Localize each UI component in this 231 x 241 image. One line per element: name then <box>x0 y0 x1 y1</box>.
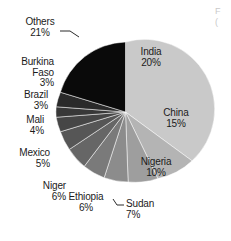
pie-label-mali-value: 4% <box>6 126 44 137</box>
pie-label-sudan-value: 7% <box>126 210 170 221</box>
cropped-edge-text: F ( <box>215 6 231 28</box>
cropped-edge-text-line2: ( <box>215 17 231 28</box>
pie-label-ethiopia-name: Ethiopia <box>62 192 110 203</box>
pie-label-brazil: Brazil 3% <box>6 90 48 111</box>
pie-label-china-name: China <box>157 108 195 119</box>
pie-chart-figure: Others 21% Burkina Faso 3% Brazil 3% Mal… <box>0 0 231 241</box>
pie-label-niger: Niger 6% <box>22 181 66 202</box>
pie-label-niger-value: 6% <box>22 192 66 203</box>
pie-label-niger-name: Niger <box>22 181 66 192</box>
cropped-edge-text-line1: F <box>215 6 231 17</box>
pie-label-nigeria-value: 10% <box>134 168 178 179</box>
pie-label-burkina-faso-name-line1: Burkina <box>6 57 54 68</box>
pie-label-india-name: India <box>133 47 169 58</box>
chart-plot-area: Others 21% Burkina Faso 3% Brazil 3% Mal… <box>0 0 231 241</box>
pie-label-sudan-name: Sudan <box>126 199 170 210</box>
pie-label-ethiopia-value: 6% <box>62 203 110 214</box>
pie-label-brazil-value: 3% <box>6 101 48 112</box>
pie-label-ethiopia: Ethiopia 6% <box>62 192 110 213</box>
pie-label-burkina-faso: Burkina Faso 3% <box>6 57 54 89</box>
pie-label-others-name: Others <box>18 17 62 28</box>
pie-label-sudan: Sudan 7% <box>126 199 170 220</box>
pie-label-mali-name: Mali <box>6 115 44 126</box>
pie-label-mexico: Mexico 5% <box>2 148 50 169</box>
pie-label-china-value: 15% <box>157 119 195 130</box>
pie-label-india: India 20% <box>133 47 169 68</box>
pie-label-mexico-value: 5% <box>2 159 50 170</box>
leader-line-sudan <box>113 199 124 205</box>
pie-label-nigeria: Nigeria 10% <box>134 157 178 178</box>
pie-label-mali: Mali 4% <box>6 115 44 136</box>
pie-label-nigeria-name: Nigeria <box>134 157 178 168</box>
pie-label-brazil-name: Brazil <box>6 90 48 101</box>
pie-label-burkina-faso-value: 3% <box>6 78 54 89</box>
pie-label-india-value: 20% <box>133 58 169 69</box>
pie-label-mexico-name: Mexico <box>2 148 50 159</box>
leader-line-others <box>60 31 79 37</box>
pie-label-china: China 15% <box>157 108 195 129</box>
pie-label-others-value: 21% <box>18 28 62 39</box>
pie-label-others: Others 21% <box>18 17 62 38</box>
